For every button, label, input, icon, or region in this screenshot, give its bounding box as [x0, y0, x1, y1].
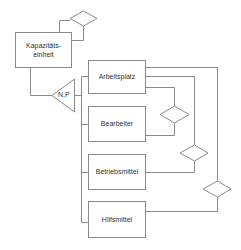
connector-kapazitaet-to-generalization [31, 68, 53, 96]
connector-diamond-1-to-bearbeiter [146, 123, 175, 136]
relationship-diamond-arbeitsplatz-betriebsmittel[interactable] [180, 145, 208, 161]
relationship-diamond-kapazitaet-self[interactable] [70, 11, 97, 26]
relationship-diamond-arbeitsplatz-hilfsmittel[interactable] [203, 181, 231, 197]
entity-label: Betriebsmittel [96, 167, 138, 176]
connector-kapazitaet-to-top-diamond [60, 21, 71, 33]
connector-diamond-3-to-hilfsmittel [146, 197, 218, 212]
entity-hilfsmittel[interactable]: Hilfsmittel [88, 201, 146, 238]
connector-top-diamond-to-kapazitaet [72, 26, 84, 41]
generalization-label: N,P [58, 91, 70, 98]
entity-arbeitsplatz[interactable]: Arbeitsplatz [88, 60, 146, 94]
entity-label: Bearbeiter [101, 119, 133, 128]
entity-kapazitaetseinheit[interactable]: Kapazitäts- einheit [15, 32, 72, 68]
entity-betriebsmittel[interactable]: Betriebsmittel [88, 154, 146, 190]
connector-arbeitsplatz-to-diamond-1 [146, 88, 175, 107]
connector-diamond-2-to-betriebsmittel [146, 161, 195, 173]
entity-label: Kapazitäts- einheit [26, 41, 61, 60]
relationship-diamond-arbeitsplatz-bearbeiter[interactable] [160, 106, 189, 123]
connector-arbeitsplatz-to-diamond-3 [146, 68, 218, 182]
entity-bearbeiter[interactable]: Bearbeiter [88, 106, 146, 142]
entity-label: Arbeitsplatz [99, 72, 136, 81]
entity-label: Hilfsmittel [102, 215, 132, 224]
